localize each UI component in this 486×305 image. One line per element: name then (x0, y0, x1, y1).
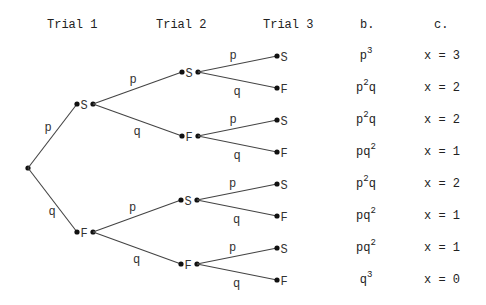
edge-t2-to-t3-2 (198, 120, 277, 136)
outcome-x-value-7: x = 0 (424, 273, 460, 287)
node-trial3-2-in-dot (274, 117, 279, 122)
probability-exponent: 3 (367, 270, 372, 280)
edge-t2-to-t3-0 (198, 56, 277, 72)
node-trial3-0-in-dot (274, 53, 279, 58)
probability-exponent: 2 (371, 142, 376, 152)
node-trial3-3-label: F (281, 147, 288, 161)
edge-t2-to-t3-1-label: q (234, 85, 241, 99)
node-trial3-4-label: S (281, 179, 288, 193)
edge-root-to-t1-0-label: p (45, 121, 52, 135)
outcome-x-value-2: x = 2 (424, 113, 460, 127)
node-trial3-7-in-dot (274, 277, 279, 282)
outcome-probability-3: pq2 (336, 145, 396, 159)
probability-base: q (360, 273, 367, 287)
node-trial3-5-label: F (281, 211, 288, 225)
node-trial3-6-label: S (281, 243, 288, 257)
edge-t1-to-t2-2 (93, 200, 181, 232)
node-trial3-5-in-dot (274, 213, 279, 218)
node-trial1-1-label: F (81, 227, 88, 241)
node-trial3-1-label: F (281, 83, 288, 97)
edge-t2-to-t3-7-label: q (233, 277, 240, 291)
node-trial3-2-label: S (281, 115, 288, 129)
outcome-probability-5: pq2 (336, 209, 396, 223)
probability-base: pq (356, 241, 370, 255)
outcome-x-value-4: x = 2 (424, 177, 460, 191)
probability-base: pq (356, 145, 370, 159)
probability-tree-diagram: pSqFpSqFpSqFpSqFpSqFpSqFpSqF (0, 0, 486, 305)
edge-t1-to-t2-1-label: q (134, 125, 141, 139)
outcome-probability-0: p3 (336, 49, 396, 63)
outcome-x-value-1: x = 2 (424, 81, 460, 95)
edge-t1-to-t2-3-label: q (133, 253, 140, 267)
probability-tail: q (369, 113, 376, 127)
outcome-probability-7: q3 (336, 273, 396, 287)
edge-t2-to-t3-4 (197, 184, 277, 200)
edge-t2-to-t3-4-label: p (229, 177, 236, 191)
probability-exponent: 2 (371, 206, 376, 216)
edge-t2-to-t3-3-label: q (234, 149, 241, 163)
edge-t2-to-t3-6-label: p (229, 241, 236, 255)
node-trial1-0-in-dot (74, 101, 79, 106)
probability-base: p (360, 49, 367, 63)
edge-root-to-t1-0 (28, 104, 77, 168)
outcome-x-value-6: x = 1 (424, 241, 460, 255)
node-trial1-1-in-dot (74, 229, 79, 234)
node-trial2-0-label: S (186, 67, 193, 81)
outcome-x-value-3: x = 1 (424, 145, 460, 159)
edge-t2-to-t3-5-label: q (233, 213, 240, 227)
edge-t2-to-t3-6 (197, 248, 277, 264)
outcome-probability-2: p2q (336, 113, 396, 127)
node-trial2-0-in-dot (179, 69, 184, 74)
node-trial2-3-label: F (185, 259, 192, 273)
node-trial3-7-label: F (281, 275, 288, 289)
probability-exponent: 3 (367, 46, 372, 56)
probability-base: pq (356, 209, 370, 223)
node-trial2-2-in-dot (178, 197, 183, 202)
node-trial3-3-in-dot (274, 149, 279, 154)
node-trial2-1-in-dot (179, 133, 184, 138)
probability-tail: q (369, 81, 376, 95)
outcome-x-value-0: x = 3 (424, 49, 460, 63)
node-trial3-6-in-dot (274, 245, 279, 250)
edge-t2-to-t3-2-label: p (230, 113, 237, 127)
outcome-probability-6: pq2 (336, 241, 396, 255)
edge-t1-to-t2-0 (93, 72, 182, 104)
node-trial2-1-label: F (186, 131, 193, 145)
edge-t1-to-t2-2-label: p (129, 201, 136, 215)
edge-root-to-t1-1 (28, 168, 77, 232)
outcome-probability-4: p2q (336, 177, 396, 191)
node-trial3-4-in-dot (274, 181, 279, 186)
node-trial3-1-in-dot (274, 85, 279, 90)
edge-t1-to-t2-0-label: p (130, 73, 137, 87)
node-trial2-2-label: S (185, 195, 192, 209)
node-trial2-3-in-dot (178, 261, 183, 266)
node-trial1-0-label: S (81, 99, 88, 113)
outcome-probability-1: p2q (336, 81, 396, 95)
edge-root-to-t1-1-label: q (49, 205, 56, 219)
outcome-x-value-5: x = 1 (424, 209, 460, 223)
node-trial3-0-label: S (281, 51, 288, 65)
edge-t2-to-t3-0-label: p (230, 49, 237, 63)
probability-tail: q (369, 177, 376, 191)
probability-exponent: 2 (371, 238, 376, 248)
